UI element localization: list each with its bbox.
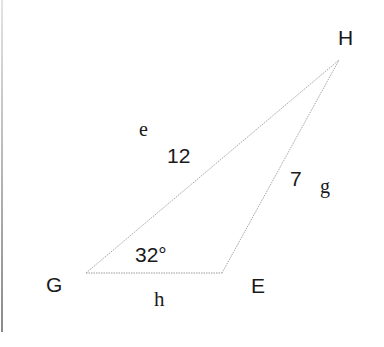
length-label-e: 12 [167,144,190,167]
side-g-line [222,60,339,273]
vertex-label-g: G [46,273,62,296]
side-label-g: g [320,175,330,198]
vertex-label-h: H [338,26,353,49]
side-label-e: e [139,118,148,140]
side-label-h: h [154,287,165,311]
angle-label-g: 32° [135,243,167,266]
vertex-label-e: E [251,274,265,297]
triangle-diagram: H G E e 12 7 g 32° h [0,0,384,347]
length-label-g: 7 [290,167,302,190]
